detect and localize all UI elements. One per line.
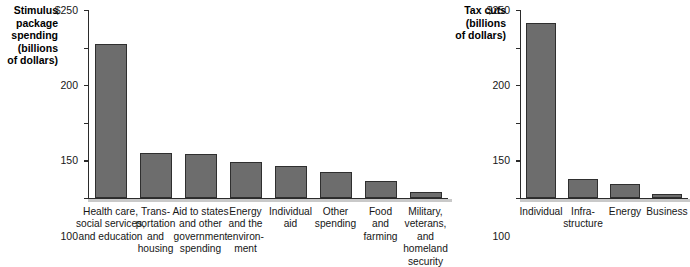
bar-slot [520, 10, 562, 198]
bar-slot [178, 10, 223, 198]
bar [568, 179, 598, 198]
bar [526, 23, 556, 198]
right-axis-shadow [520, 199, 690, 202]
right-bar-group [520, 10, 688, 198]
chart-panel-stimulus: Stimulus package spending (billions of d… [0, 0, 452, 267]
left-axis-shadow [88, 199, 452, 202]
y-tick-mark: 0 [84, 198, 88, 199]
y-tick-mark: 0 [516, 198, 520, 199]
bar [610, 184, 640, 198]
bar [185, 154, 217, 198]
bar [95, 44, 127, 198]
left-plot-area: 050100150200$250 [88, 10, 448, 198]
bar [365, 181, 397, 198]
bar [652, 194, 682, 198]
right-plot-area: 050100150200$250 [520, 10, 688, 198]
bar-slot [133, 10, 178, 198]
left-chart-title: Stimulus package spending (billions of d… [0, 4, 58, 67]
bar-slot [562, 10, 604, 198]
left-bar-group [88, 10, 448, 198]
y-tick-label: 200 [492, 80, 510, 91]
category-label: Business [639, 206, 690, 218]
y-tick-label: 150 [60, 155, 78, 166]
bar-slot [313, 10, 358, 198]
bar [230, 162, 262, 198]
bar [320, 172, 352, 198]
bar-slot [646, 10, 688, 198]
dual-bar-chart-figure: Stimulus package spending (billions of d… [0, 0, 690, 267]
bar-slot [223, 10, 268, 198]
y-tick-label: $250 [55, 5, 78, 16]
bar-slot [88, 10, 133, 198]
y-tick-label: 150 [492, 155, 510, 166]
bar-slot [358, 10, 403, 198]
chart-panel-tax-cuts: Tax cuts (billions of dollars) 050100150… [430, 0, 690, 267]
bar-slot [268, 10, 313, 198]
bar-slot [604, 10, 646, 198]
bar [275, 166, 307, 198]
bar [140, 153, 172, 198]
y-tick-label: 200 [60, 80, 78, 91]
y-tick-label: 100 [492, 230, 510, 241]
y-tick-label: $250 [487, 5, 510, 16]
